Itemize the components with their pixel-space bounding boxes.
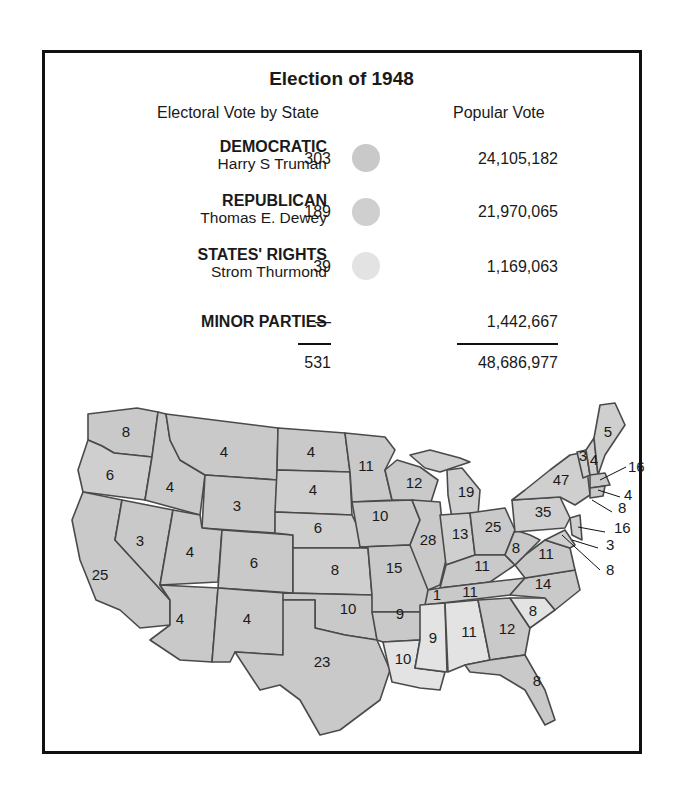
state-ev-callout-de: 3 bbox=[606, 536, 614, 553]
state-fl bbox=[465, 655, 555, 725]
state-ev-label-la: 10 bbox=[395, 650, 412, 667]
state-ev-label-tn: 11 bbox=[462, 583, 478, 600]
state-ev-label-wv: 8 bbox=[512, 539, 520, 556]
state-ev-label-ne: 6 bbox=[314, 519, 322, 536]
state-ev-label-nh: 4 bbox=[590, 451, 598, 468]
state-ev-label-mt: 4 bbox=[220, 443, 228, 460]
state-ev-label-nd: 4 bbox=[307, 443, 315, 460]
state-ev-label-wy: 3 bbox=[233, 497, 241, 514]
state-ev-label-tx: 23 bbox=[314, 653, 331, 670]
state-ev-label-ar: 9 bbox=[396, 605, 404, 622]
state-ev-label-al: 11 bbox=[461, 623, 477, 640]
state-ev-label-co: 6 bbox=[250, 554, 258, 571]
state-ev-label-il: 28 bbox=[420, 531, 437, 548]
state-ev-label-or: 6 bbox=[106, 466, 114, 483]
state-ev-label-mi: 19 bbox=[458, 483, 475, 500]
state-ev-label-sc: 8 bbox=[529, 602, 537, 619]
state-ev-label-mo: 15 bbox=[386, 559, 403, 576]
us-map: 8625434346444468102311101591012289191311… bbox=[0, 0, 683, 789]
state-ev-label-ca: 25 bbox=[92, 566, 109, 583]
state-ev-label-ga: 12 bbox=[499, 620, 516, 637]
state-ev-label-pa: 35 bbox=[535, 503, 552, 520]
state-ev-label-ny: 47 bbox=[553, 471, 570, 488]
state-ev-label-va: 11 bbox=[538, 545, 554, 562]
state-ev-label-ut: 4 bbox=[186, 543, 194, 560]
state-ev-label-ky: 11 bbox=[474, 557, 490, 574]
state-ma bbox=[590, 473, 610, 488]
state-ev-label-oh: 25 bbox=[485, 518, 502, 535]
state-ev-label-tn-w: 1 bbox=[433, 586, 441, 603]
state-ev-label-ms: 9 bbox=[429, 629, 437, 646]
state-ev-label-wi: 12 bbox=[406, 474, 423, 491]
state-ev-label-ok: 10 bbox=[340, 600, 357, 617]
state-ev-label-ks: 8 bbox=[331, 561, 339, 578]
state-ev-callout-ma: 16 bbox=[628, 458, 645, 475]
state-ev-label-ia: 10 bbox=[372, 507, 389, 524]
state-ev-label-wa: 8 bbox=[122, 423, 130, 440]
state-ev-label-sd: 4 bbox=[309, 481, 317, 498]
state-ev-label-me: 5 bbox=[604, 423, 612, 440]
state-ev-label-az: 4 bbox=[176, 610, 184, 627]
state-ev-label-vt: 3 bbox=[579, 447, 587, 464]
state-ev-label-mn: 11 bbox=[358, 457, 374, 474]
state-ev-callout-ct: 8 bbox=[618, 499, 626, 516]
state-ev-callout-nj: 16 bbox=[614, 519, 631, 536]
state-ev-label-fl: 8 bbox=[533, 672, 541, 689]
state-ev-label-nv: 3 bbox=[136, 532, 144, 549]
state-ev-label-in: 13 bbox=[452, 525, 469, 542]
state-ev-label-id: 4 bbox=[166, 478, 174, 495]
state-ev-label-nc: 14 bbox=[535, 575, 552, 592]
state-ev-callout-md: 8 bbox=[606, 561, 614, 578]
state-ev-label-nm: 4 bbox=[243, 610, 251, 627]
